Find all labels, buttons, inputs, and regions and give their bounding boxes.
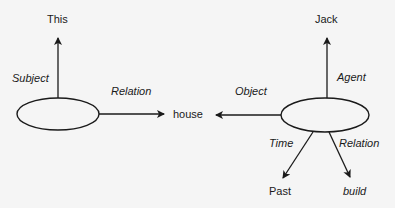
edge-label-relation-left: Relation: [111, 86, 151, 97]
edge-label-agent: Agent: [337, 72, 366, 83]
node-build: build: [343, 186, 366, 197]
edge-label-relation-right: Relation: [339, 138, 379, 149]
edge-label-time: Time: [269, 138, 293, 149]
node-jack: Jack: [315, 14, 338, 25]
edge-label-subject: Subject: [12, 73, 49, 84]
diagram-canvas: [0, 0, 395, 208]
node-past: Past: [269, 186, 291, 197]
right-concept-node: [281, 98, 369, 132]
node-house: house: [173, 109, 203, 120]
edge-label-object: Object: [235, 86, 267, 97]
node-this: This: [47, 14, 68, 25]
left-concept-node: [17, 98, 99, 130]
